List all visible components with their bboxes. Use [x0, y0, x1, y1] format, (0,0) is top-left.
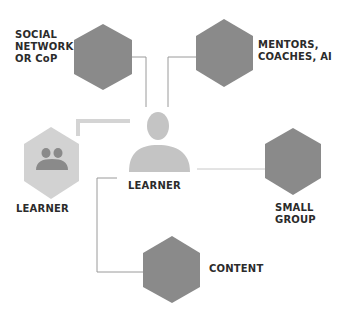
connector-mentors: [168, 57, 196, 107]
label-small-group: SMALL GROUP: [275, 202, 316, 226]
hexagon-mentors: [196, 19, 253, 87]
label-social-network: SOCIAL NETWORK OR CoP: [15, 29, 73, 65]
label-mentors: MENTORS, COACHES, AI: [258, 39, 332, 63]
label-content: CONTENT: [209, 263, 263, 275]
connector-learner-peer: [78, 121, 130, 136]
hexagon-small-group: [265, 128, 321, 195]
connector-content: [97, 178, 143, 272]
label-center-learner: LEARNER: [128, 180, 181, 192]
hexagon-social-network: [74, 24, 132, 90]
connector-social-network: [132, 57, 146, 107]
hexagon-content: [143, 236, 200, 303]
person-icon: [129, 112, 190, 172]
label-learner-peer: LEARNER: [16, 203, 69, 215]
